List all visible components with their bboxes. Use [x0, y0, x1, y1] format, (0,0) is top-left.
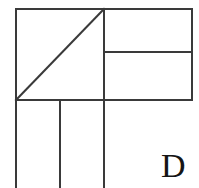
square-diagonal	[16, 9, 104, 100]
figure-canvas: D	[0, 0, 199, 188]
figure-label-d: D	[161, 149, 186, 183]
